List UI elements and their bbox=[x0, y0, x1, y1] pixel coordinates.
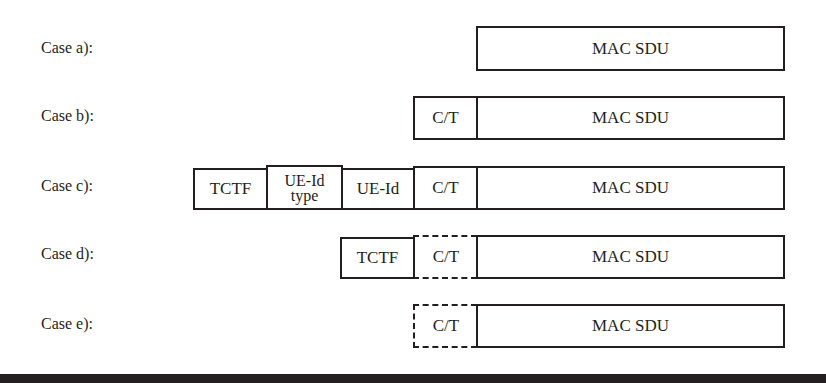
case-c-label: Case c): bbox=[41, 176, 93, 196]
case-d-label: Case d): bbox=[41, 244, 94, 264]
tctf-field: TCTF bbox=[340, 237, 415, 279]
ct-optional-field: C/T bbox=[413, 304, 477, 348]
ue-id-type-field: UE-Id type bbox=[266, 165, 343, 210]
ct-field: C/T bbox=[413, 96, 478, 140]
case-e-label: Case e): bbox=[41, 314, 93, 334]
ue-id-field: UE-Id bbox=[341, 168, 415, 210]
case-b-label: Case b): bbox=[41, 106, 94, 126]
bottom-rule bbox=[0, 374, 826, 383]
ue-id-type-line2: type bbox=[291, 188, 319, 203]
mac-sdu-field: MAC SDU bbox=[476, 304, 785, 348]
mac-sdu-field: MAC SDU bbox=[476, 96, 785, 140]
case-a-label: Case a): bbox=[41, 38, 93, 58]
ue-id-type-line1: UE-Id bbox=[285, 173, 325, 188]
ct-field: C/T bbox=[413, 166, 478, 210]
tctf-field: TCTF bbox=[193, 168, 268, 210]
ct-optional-field: C/T bbox=[413, 235, 477, 279]
mac-sdu-field: MAC SDU bbox=[476, 235, 785, 279]
mac-sdu-field: MAC SDU bbox=[476, 26, 785, 71]
mac-sdu-field: MAC SDU bbox=[476, 166, 785, 210]
